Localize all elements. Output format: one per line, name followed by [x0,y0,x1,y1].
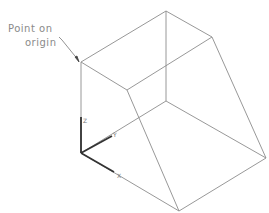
edge [212,37,266,158]
edge [127,90,179,211]
z-axis-label: Z [83,118,87,124]
annotation-line2: origin [25,37,56,48]
edge [81,62,127,90]
cad-viewport: Point on origin Z Y X [0,0,269,213]
y-axis [81,136,112,153]
x-axis-label: X [117,173,121,179]
edge [179,158,266,211]
edge [166,101,266,158]
x-axis [81,153,114,172]
edge [81,11,166,62]
edge [127,37,212,90]
edge [166,11,212,37]
annotation-line1: Point on [8,23,52,34]
leader-arrow [59,37,79,62]
y-axis-label: Y [113,132,117,138]
